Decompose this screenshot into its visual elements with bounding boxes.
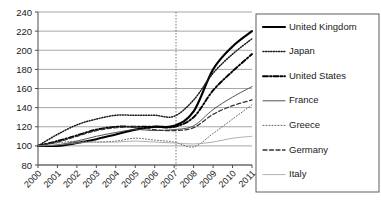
y-axis-tick-label: 100 xyxy=(16,140,32,151)
legend-label-united-states: United States xyxy=(289,70,346,81)
line-chart: 80100120140160180200220240 2000200120022… xyxy=(0,0,381,207)
x-axis-tick-label: 2002 xyxy=(61,168,82,189)
x-axis-tick-label: 2000 xyxy=(22,168,43,189)
y-axis-labels: 80100120140160180200220240 xyxy=(16,7,32,171)
legend-label-italy: Italy xyxy=(289,168,307,179)
x-axis-labels: 2000200120022003200420052006200720082009… xyxy=(22,168,257,189)
y-axis-tick-label: 220 xyxy=(16,26,32,37)
y-axis-tick-label: 160 xyxy=(16,83,32,94)
y-gridlines xyxy=(38,12,252,165)
legend-label-japan: Japan xyxy=(289,45,315,56)
legend-items: United KingdomJapanUnited StatesFranceGr… xyxy=(263,21,357,180)
x-axis-tick-label: 2001 xyxy=(42,168,63,189)
x-axis-tick-label: 2007 xyxy=(158,168,179,189)
x-axis-tick-label: 2006 xyxy=(139,168,160,189)
legend-label-greece: Greece xyxy=(289,119,320,130)
series-line-united-states xyxy=(38,54,252,146)
y-axis-tick-label: 80 xyxy=(21,160,32,171)
x-axis-tick-label: 2004 xyxy=(100,168,121,189)
x-axis-tick-label: 2008 xyxy=(178,168,199,189)
y-axis-tick-label: 120 xyxy=(16,121,32,132)
x-axis-tick-label: 2010 xyxy=(217,168,238,189)
y-axis-tick-label: 200 xyxy=(16,45,32,56)
y-axis-tick-label: 180 xyxy=(16,64,32,75)
series-paths xyxy=(38,31,252,147)
x-axis-tick-label: 2011 xyxy=(237,168,258,189)
x-axis-tick-label: 2005 xyxy=(119,168,140,189)
legend-label-germany: Germany xyxy=(289,144,328,155)
x-axis-tick-label: 2003 xyxy=(81,168,102,189)
legend-label-united-kingdom: United Kingdom xyxy=(289,21,357,32)
x-axis-tick-label: 2009 xyxy=(197,168,218,189)
y-axis-tick-label: 240 xyxy=(16,7,32,18)
y-axis-tick-label: 140 xyxy=(16,102,32,113)
legend-label-france: France xyxy=(289,94,319,105)
chart-container: 80100120140160180200220240 2000200120022… xyxy=(0,0,381,207)
